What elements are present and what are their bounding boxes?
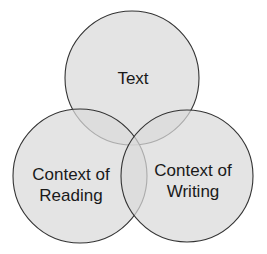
- label-context-of-writing-line1: Context of: [154, 161, 232, 180]
- label-text: Text: [117, 69, 148, 88]
- label-context-of-reading-line2: Reading: [39, 186, 102, 205]
- label-context-of-reading-line1: Context of: [32, 165, 110, 184]
- label-context-of-writing-line2: Writing: [167, 182, 220, 201]
- venn-diagram: Text Context of Reading Context of Writi…: [0, 0, 267, 254]
